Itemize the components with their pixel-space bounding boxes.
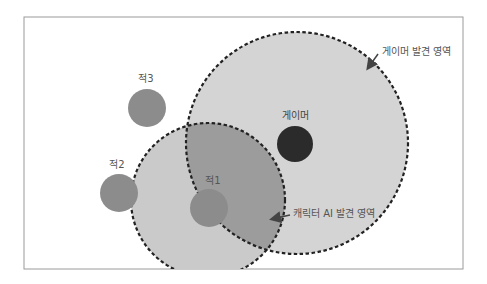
- enemy2-label: 적2: [109, 159, 124, 170]
- player-icon: [277, 126, 313, 162]
- enemy2-icon: [100, 174, 138, 212]
- enemy3-label: 적3: [138, 73, 153, 84]
- detection-diagram: 게이머 적1 적2 적3 게이머 발견 영역 캐릭터 AI 발견 영역: [0, 0, 487, 284]
- player-area-callout: 게이머 발견 영역: [382, 46, 451, 57]
- player-label: 게이머: [282, 110, 309, 121]
- enemy3-icon: [128, 89, 166, 127]
- ai-area-callout: 캐릭터 AI 발견 영역: [293, 208, 375, 219]
- enemy1-icon: [190, 189, 228, 227]
- enemy1-label: 적1: [205, 175, 220, 186]
